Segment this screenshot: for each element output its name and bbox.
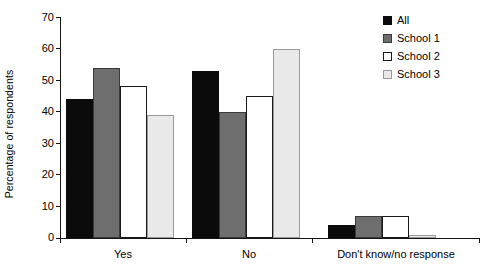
legend-label-school-3: School 3 — [397, 68, 440, 80]
y-tick-label-60: 60 — [22, 43, 54, 54]
legend-label-school-1: School 1 — [397, 32, 440, 44]
bar-school1-group-2 — [219, 112, 246, 238]
bar-chart-figure: Percentage of respondents 70 60 50 40 30… — [0, 0, 484, 268]
legend-swatch-school-1-icon — [383, 34, 392, 43]
y-tick-label-40: 40 — [22, 106, 54, 117]
bar-school2-group-2 — [246, 96, 273, 238]
bar-school1-group-1 — [93, 68, 120, 238]
legend-item-school-1: School 1 — [383, 29, 483, 47]
x-tick-label-yes: Yes — [60, 248, 186, 261]
x-axis-line — [60, 238, 480, 239]
bar-school3-group-3 — [409, 235, 436, 238]
y-tick-label-30: 30 — [22, 138, 54, 149]
x-axis-separator-1 — [186, 238, 187, 243]
x-tick-label-dont-know: Don't know/no response — [312, 248, 480, 261]
y-tick-label-0: 0 — [22, 232, 54, 243]
bar-school3-group-1 — [147, 115, 174, 238]
legend-item-school-2: School 2 — [383, 47, 483, 65]
bar-all-group-2 — [192, 71, 219, 238]
legend-label-school-2: School 2 — [397, 50, 440, 62]
bar-group-2 — [192, 17, 300, 238]
legend-swatch-school-3-icon — [383, 70, 392, 79]
y-tick-label-20: 20 — [22, 169, 54, 180]
legend-swatch-all-icon — [383, 16, 392, 25]
bar-school3-group-2 — [273, 49, 300, 238]
bar-all-group-3 — [328, 225, 355, 238]
bar-school2-group-3 — [382, 216, 409, 238]
y-tick-label-50: 50 — [22, 75, 54, 86]
legend-item-all: All — [383, 11, 483, 29]
bar-school1-group-3 — [355, 216, 382, 238]
chart-legend: All School 1 School 2 School 3 — [383, 11, 483, 83]
x-axis-separator-start — [60, 238, 61, 243]
legend-item-school-3: School 3 — [383, 65, 483, 83]
y-axis-ticks: 70 60 50 40 30 20 10 0 — [22, 0, 54, 268]
y-tick-label-70: 70 — [22, 12, 54, 23]
bar-all-group-1 — [66, 99, 93, 238]
x-axis-separator-end — [479, 238, 480, 243]
legend-swatch-school-2-icon — [383, 52, 392, 61]
x-tick-label-no: No — [186, 248, 312, 261]
bar-school2-group-1 — [120, 86, 147, 238]
y-axis-title: Percentage of respondents — [0, 0, 18, 268]
y-tick-label-10: 10 — [22, 201, 54, 212]
x-axis-separator-2 — [312, 238, 313, 243]
legend-label-all: All — [397, 14, 409, 26]
bar-group-1 — [66, 17, 174, 238]
